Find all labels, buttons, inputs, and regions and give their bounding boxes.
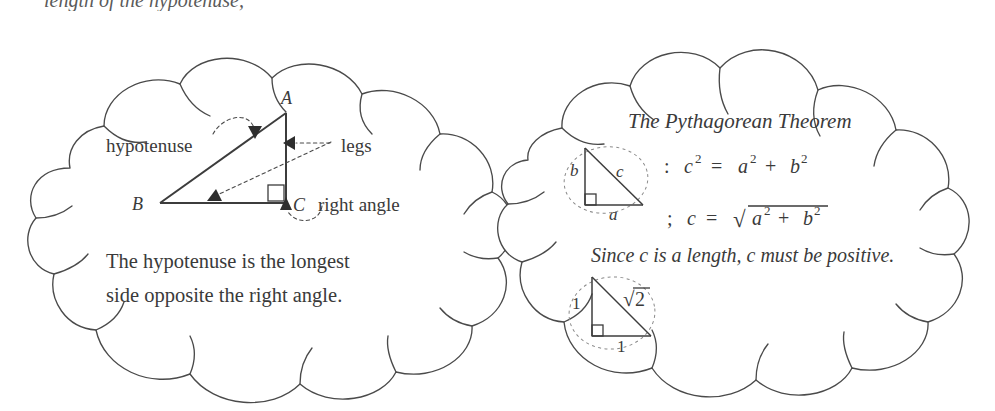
- formula2-rad-plus: +: [778, 207, 789, 229]
- left-caption-line-2: side opposite the right angle.: [106, 284, 342, 307]
- vertex-label-a: A: [280, 88, 293, 108]
- formula2-rad-term1-base: a: [752, 207, 762, 229]
- left-cloud-outline: [28, 58, 513, 402]
- vertex-label-b: B: [132, 194, 143, 214]
- formula2-rad-term2-base: b: [803, 207, 813, 229]
- unit-label-leg-vertical: 1: [572, 294, 581, 313]
- formula1-plus: +: [765, 155, 776, 177]
- abc-label-c: c: [616, 162, 624, 181]
- formula1-lhs-exp: 2: [695, 151, 702, 166]
- formula1-lhs-base: c: [684, 155, 693, 177]
- formula2-rad-term2-exp: 2: [814, 203, 821, 218]
- formula2-rad-term1-exp: 2: [764, 203, 771, 218]
- label-hypotenuse: hypotenuse: [106, 135, 193, 156]
- formula1-term1-base: a: [738, 155, 748, 177]
- formula1-equals: =: [711, 155, 722, 177]
- formula1-term1-exp: 2: [750, 151, 757, 166]
- formula2-lhs: c: [687, 207, 696, 229]
- pythagorean-theorem-title: The Pythagorean Theorem: [628, 109, 852, 133]
- label-legs: legs: [341, 135, 372, 156]
- formula2-prefix: ;: [667, 207, 673, 229]
- figure-svg: A B C hypotenuse legs right angle The hy…: [0, 0, 995, 411]
- formula1-term2-base: b: [790, 155, 800, 177]
- label-right-angle: right angle: [318, 194, 400, 215]
- positive-length-note: Since c is a length, c must be positive.: [591, 244, 894, 267]
- unit-label-leg-horizontal: 1: [617, 337, 626, 356]
- unit-hypotenuse-radical-sign: √: [623, 287, 635, 311]
- formula1-prefix: :: [664, 155, 670, 177]
- left-caption-line-1: The hypotenuse is the longest: [106, 250, 350, 273]
- abc-label-a: a: [609, 205, 618, 224]
- abc-label-b: b: [570, 161, 579, 180]
- left-cloud-group: [28, 58, 513, 402]
- vertex-label-c: C: [293, 195, 306, 215]
- figure-canvas: length of the hypotenuse,: [0, 0, 995, 411]
- unit-hypotenuse-value: 2: [635, 288, 645, 310]
- formula2-equals: =: [706, 207, 717, 229]
- formula1-term2-exp: 2: [801, 151, 808, 166]
- formula2-radical-sign: √: [733, 207, 746, 232]
